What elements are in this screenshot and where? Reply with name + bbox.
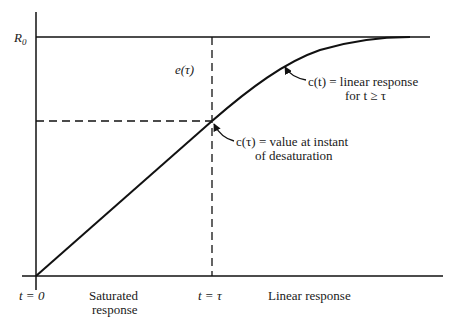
error-label: e(τ): [175, 62, 194, 77]
linear-response-label-2: for t ≥ τ: [345, 88, 386, 103]
desaturation-label-1: c(τ) = value at instant: [236, 134, 349, 149]
linear-response-label-1: c(t) = linear response: [308, 74, 418, 89]
desaturation-label-2: of desaturation: [255, 148, 333, 163]
ttau-label: t = τ: [198, 288, 223, 303]
y-axis-label: R0: [13, 30, 27, 47]
arrow-desaturation: [214, 124, 234, 141]
arrow-linear-response: [285, 67, 306, 80]
saturated-label-1: Saturated: [89, 288, 139, 303]
saturated-ramp: [36, 121, 212, 276]
saturated-label-2: response: [92, 302, 138, 317]
linear-response-axis-label: Linear response: [268, 288, 351, 303]
y-axis-label-sub: 0: [22, 37, 27, 47]
t0-label: t = 0: [19, 288, 45, 303]
response-diagram: R0 e(τ) c(t) = linear response for t ≥ τ…: [0, 0, 457, 329]
